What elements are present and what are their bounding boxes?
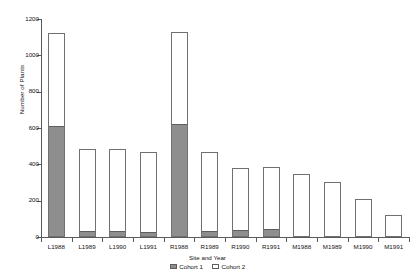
bar bbox=[48, 33, 65, 237]
x-tick-label: R1991 bbox=[254, 243, 288, 250]
bar bbox=[232, 168, 249, 237]
bar-segment-cohort-1 bbox=[141, 232, 156, 236]
bar-segment-cohort-1 bbox=[233, 230, 248, 236]
bar bbox=[201, 152, 218, 237]
y-axis-line bbox=[41, 20, 42, 238]
bar bbox=[324, 182, 341, 237]
bar bbox=[263, 167, 280, 237]
y-tick-label: 1000 bbox=[25, 51, 39, 59]
x-tick-label: L1989 bbox=[70, 243, 104, 250]
legend-entry: Cohort 1 bbox=[170, 263, 203, 270]
legend-swatch-icon bbox=[170, 264, 177, 269]
bar bbox=[79, 149, 96, 237]
chart-legend: Cohort 1Cohort 2 bbox=[0, 263, 415, 270]
bar bbox=[293, 174, 310, 237]
bar bbox=[385, 215, 402, 237]
x-tick-mark bbox=[409, 237, 410, 242]
legend-swatch-icon bbox=[212, 264, 219, 269]
bar-segment-cohort-1 bbox=[110, 231, 125, 236]
bar-chart: Number of Plants 020040060080010001200 L… bbox=[0, 0, 415, 275]
y-tick: 200 bbox=[41, 201, 42, 202]
bar bbox=[355, 199, 372, 237]
x-tick-mark bbox=[378, 237, 379, 242]
bar bbox=[109, 149, 126, 237]
x-tick-label: R1990 bbox=[223, 243, 257, 250]
x-tick-mark bbox=[256, 237, 257, 242]
x-tick-label: M1991 bbox=[377, 243, 411, 250]
y-tick-label: 200 bbox=[29, 196, 39, 204]
x-tick-mark bbox=[194, 237, 195, 242]
bar-segment-cohort-1 bbox=[264, 229, 279, 236]
legend-label: Cohort 1 bbox=[179, 263, 203, 270]
bar bbox=[140, 152, 157, 237]
bar-segment-cohort-1 bbox=[80, 231, 95, 236]
x-tick-label: L1991 bbox=[131, 243, 165, 250]
x-tick-mark bbox=[225, 237, 226, 242]
x-tick-mark bbox=[41, 237, 42, 242]
y-tick: 1000 bbox=[41, 55, 42, 56]
x-tick-mark bbox=[133, 237, 134, 242]
x-tick-label: R1988 bbox=[162, 243, 196, 250]
x-tick-mark bbox=[317, 237, 318, 242]
y-tick: 600 bbox=[41, 128, 42, 129]
bar-segment-cohort-1 bbox=[202, 231, 217, 236]
x-tick-label: M1990 bbox=[346, 243, 380, 250]
x-tick-mark bbox=[164, 237, 165, 242]
y-tick-label: 1200 bbox=[25, 15, 39, 23]
x-tick-label: L1988 bbox=[39, 243, 73, 250]
legend-entry: Cohort 2 bbox=[212, 263, 245, 270]
y-tick-label: 800 bbox=[29, 87, 39, 95]
x-tick-mark bbox=[286, 237, 287, 242]
y-tick-label: 600 bbox=[29, 124, 39, 132]
x-tick-label: M1988 bbox=[285, 243, 319, 250]
x-tick-label: L1990 bbox=[101, 243, 135, 250]
y-tick-label: 400 bbox=[29, 160, 39, 168]
x-axis-title: Site and Year bbox=[0, 254, 415, 261]
x-tick-label: M1989 bbox=[315, 243, 349, 250]
y-axis-title: Number of Plants bbox=[18, 25, 25, 155]
bar bbox=[171, 32, 188, 237]
y-tick: 400 bbox=[41, 164, 42, 165]
x-tick-mark bbox=[102, 237, 103, 242]
plot-area: 020040060080010001200 bbox=[41, 20, 409, 238]
x-tick-label: R1989 bbox=[193, 243, 227, 250]
y-tick: 800 bbox=[41, 92, 42, 93]
y-tick: 1200 bbox=[41, 19, 42, 20]
bar-segment-cohort-1 bbox=[49, 126, 64, 236]
bar-segment-cohort-1 bbox=[172, 124, 187, 236]
legend-label: Cohort 2 bbox=[222, 263, 246, 270]
x-tick-mark bbox=[348, 237, 349, 242]
x-tick-mark bbox=[72, 237, 73, 242]
y-tick-label: 0 bbox=[36, 233, 39, 241]
